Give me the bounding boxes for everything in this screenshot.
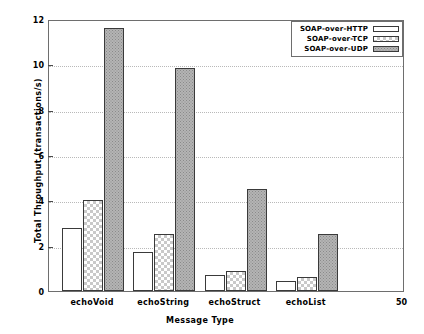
x-tick-label: echoVoid (70, 298, 113, 307)
legend-swatch (373, 36, 399, 42)
y-tick-mark (48, 156, 53, 157)
bar-echoString-SOAP-over-UDP (175, 68, 195, 291)
legend-label: SOAP-over-UDP (304, 45, 368, 53)
legend-item: SOAP-over-TCP (295, 34, 399, 43)
legend-label: SOAP-over-TCP (307, 35, 368, 43)
x-axis-title: Message Type (44, 316, 356, 325)
bar-echoString-SOAP-over-TCP (154, 234, 174, 291)
bar-echoStruct-SOAP-over-HTTP (205, 275, 225, 291)
x-tick-label: echoStruct (208, 298, 260, 307)
bar-echoString-SOAP-over-HTTP (133, 252, 153, 291)
legend-item: SOAP-over-UDP (295, 44, 399, 53)
y-tick-label: 2 (14, 242, 44, 251)
x-tick-label: echoString (137, 298, 189, 307)
gridline (49, 112, 403, 113)
legend-item: SOAP-over-HTTP (295, 24, 399, 33)
y-tick-label: 12 (14, 16, 44, 25)
legend-label: SOAP-over-HTTP (300, 25, 368, 33)
bar-echoVoid-SOAP-over-HTTP (62, 228, 82, 291)
plot-area (48, 20, 404, 292)
bar-echoStruct-SOAP-over-TCP (226, 271, 246, 291)
bar-echoList-SOAP-over-UDP (318, 234, 338, 291)
gridline (49, 66, 403, 67)
legend-swatch (373, 46, 399, 52)
y-tick-mark (48, 201, 53, 202)
bar-echoVoid-SOAP-over-TCP (83, 200, 103, 291)
y-tick-mark (48, 247, 53, 248)
bar-echoVoid-SOAP-over-UDP (104, 28, 124, 291)
bar-echoStruct-SOAP-over-UDP (247, 189, 267, 291)
y-tick-mark (48, 65, 53, 66)
x-tick-label: echoList (286, 298, 326, 307)
legend: SOAP-over-HTTPSOAP-over-TCPSOAP-over-UDP (291, 21, 403, 57)
bar-echoList-SOAP-over-HTTP (276, 281, 296, 291)
y-tick-label: 4 (14, 197, 44, 206)
y-tick-label: 8 (14, 106, 44, 115)
y-tick-label: 6 (14, 152, 44, 161)
stray-axis-annotation: 50 (396, 298, 407, 307)
y-tick-label: 10 (14, 61, 44, 70)
y-tick-label: 0 (14, 288, 44, 297)
legend-swatch (373, 26, 399, 32)
bar-echoList-SOAP-over-TCP (297, 277, 317, 291)
y-tick-mark (48, 111, 53, 112)
gridline (49, 157, 403, 158)
bar-chart: Total Throughput (transactions/s) Messag… (0, 0, 424, 334)
